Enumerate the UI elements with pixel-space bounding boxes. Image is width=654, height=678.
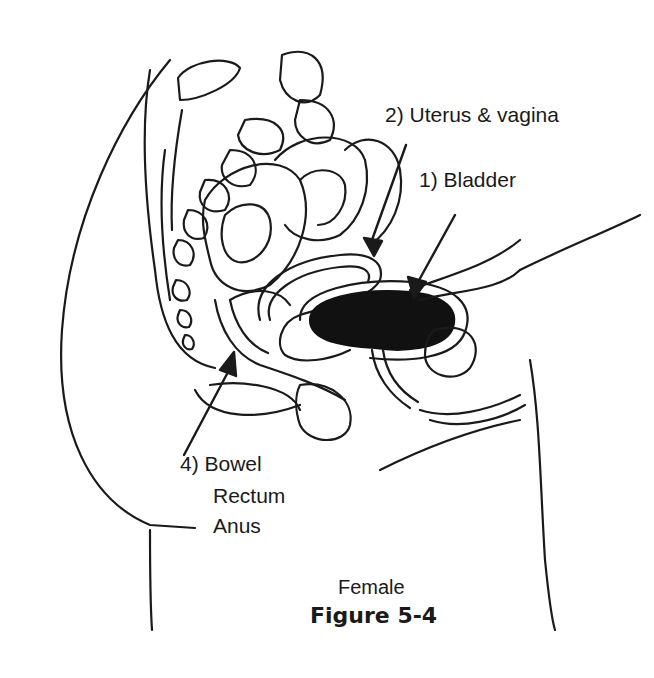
body-contour-back: [61, 60, 195, 528]
spine-icon: [173, 52, 334, 349]
pelvic-anatomy-drawing: [0, 0, 654, 678]
label-rectum: Rectum: [213, 484, 285, 508]
label-anus: Anus: [213, 514, 261, 538]
label-bowel: 4) Bowel: [180, 452, 262, 476]
body-contour-front: [520, 215, 640, 270]
label-uterus-vagina: 2) Uterus & vagina: [385, 103, 559, 127]
caption-female: Female: [338, 576, 405, 599]
label-bladder: 1) Bladder: [419, 168, 516, 192]
figure-title: Figure 5-4: [310, 603, 437, 628]
bladder-fill: [310, 291, 454, 350]
bowel-loops-icon: [203, 138, 401, 306]
